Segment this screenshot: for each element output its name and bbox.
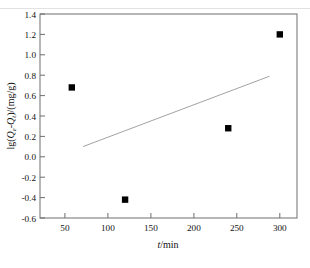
y-axis-title-prefix: lg( xyxy=(5,138,17,150)
y-tick-label: 0.4 xyxy=(25,112,37,122)
data-point-marker xyxy=(277,31,283,37)
data-point-marker xyxy=(122,196,128,202)
y-tick-label: -0.4 xyxy=(21,193,36,203)
x-tick-labels: 50 100 150 200 250 300 xyxy=(60,223,287,233)
y-tick-label: -0.6 xyxy=(21,214,36,224)
x-axis-ticks xyxy=(65,213,280,218)
y-tick-label: 0.0 xyxy=(25,152,37,162)
y-axis-title: lg(Qe-Qt)/(mg/g) xyxy=(5,82,17,149)
y-tick-label: 0.2 xyxy=(25,132,37,142)
y-tick-label: 1.2 xyxy=(25,30,37,40)
y-tick-label: 0.6 xyxy=(25,91,37,101)
x-axis-title: t/min xyxy=(157,239,178,250)
y-tick-label: 1.4 xyxy=(25,10,37,20)
x-tick-label: 200 xyxy=(187,223,201,233)
trend-line xyxy=(83,76,270,146)
chart-svg: 1.4 1.2 1.0 0.8 0.6 0.4 0.2 0.0 -0.2 -0.… xyxy=(0,0,310,268)
x-tick-label: 100 xyxy=(101,223,115,233)
y-axis-title-suffix: )/(mg/g) xyxy=(5,82,17,115)
y-tick-labels: 1.4 1.2 1.0 0.8 0.6 0.4 0.2 0.0 -0.2 -0.… xyxy=(21,10,36,224)
y-tick-label: -0.2 xyxy=(21,173,36,183)
x-axis-title-unit: /min xyxy=(160,239,178,250)
plot-frame xyxy=(40,14,297,218)
data-point-group xyxy=(69,31,283,203)
x-tick-label: 150 xyxy=(144,223,158,233)
x-tick-label: 250 xyxy=(230,223,244,233)
y-axis-ticks xyxy=(40,14,45,218)
y-tick-label: 0.8 xyxy=(25,71,37,81)
chart-figure: 1.4 1.2 1.0 0.8 0.6 0.4 0.2 0.0 -0.2 -0.… xyxy=(0,0,310,268)
y-tick-label: 1.0 xyxy=(25,50,37,60)
x-tick-label: 50 xyxy=(60,223,70,233)
data-point-marker xyxy=(69,84,75,90)
x-tick-label: 300 xyxy=(273,223,287,233)
data-point-marker xyxy=(225,125,231,131)
